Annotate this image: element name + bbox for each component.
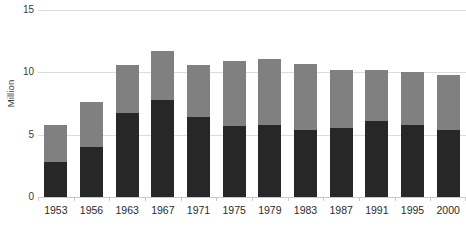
bar-1995[interactable] — [401, 10, 424, 197]
bar-segment-upper-1953 — [44, 125, 67, 162]
bar-1963[interactable] — [116, 10, 139, 197]
bar-segment-lower-1971 — [187, 117, 210, 197]
x-axis-label-1995: 1995 — [395, 204, 431, 217]
x-axis-label-1983: 1983 — [288, 204, 324, 217]
x-tick-1953 — [38, 197, 39, 201]
x-tick-1987 — [323, 197, 324, 201]
x-axis-label-1971: 1971 — [181, 204, 217, 217]
bar-segment-upper-1967 — [151, 51, 174, 100]
x-tick-1967 — [145, 197, 146, 201]
x-axis-label-1975: 1975 — [216, 204, 252, 217]
bar-1975[interactable] — [223, 10, 246, 197]
y-tick-label-5: 5 — [4, 130, 34, 140]
bar-1987[interactable] — [330, 10, 353, 197]
y-tick-label-10: 10 — [4, 67, 34, 77]
bar-segment-lower-1995 — [401, 125, 424, 197]
bar-segment-lower-1975 — [223, 126, 246, 197]
x-tick-1963 — [109, 197, 110, 201]
bar-2000[interactable] — [437, 10, 460, 197]
x-tick-1991 — [359, 197, 360, 201]
plot-area — [38, 10, 466, 197]
x-tick-1983 — [288, 197, 289, 201]
bar-segment-lower-1953 — [44, 162, 67, 197]
bar-segment-lower-1987 — [330, 128, 353, 197]
bar-1983[interactable] — [294, 10, 317, 197]
y-axis-tick-labels: 15 10 5 0 — [0, 10, 34, 197]
x-axis-label-1987: 1987 — [323, 204, 359, 217]
x-axis-label-1953: 1953 — [38, 204, 74, 217]
x-tick-1995 — [395, 197, 396, 201]
bar-segment-lower-1963 — [116, 113, 139, 197]
bar-segment-upper-1971 — [187, 65, 210, 117]
bar-segment-upper-2000 — [437, 75, 460, 130]
x-tick-1975 — [216, 197, 217, 201]
bar-segment-lower-1991 — [365, 121, 388, 197]
x-axis-label-1956: 1956 — [74, 204, 110, 217]
bar-1956[interactable] — [80, 10, 103, 197]
bar-segment-lower-2000 — [437, 130, 460, 197]
x-tick-1956 — [74, 197, 75, 201]
bar-1971[interactable] — [187, 10, 210, 197]
bar-segment-lower-1956 — [80, 147, 103, 197]
bar-segment-upper-1995 — [401, 72, 424, 124]
bar-segment-upper-1991 — [365, 70, 388, 121]
x-axis-label-1979: 1979 — [252, 204, 288, 217]
bar-segment-upper-1975 — [223, 61, 246, 126]
bar-segment-upper-1983 — [294, 64, 317, 130]
stacked-bar-chart: Million 15 10 5 0 1953195619631967197119… — [0, 0, 466, 227]
x-axis-label-2000: 2000 — [430, 204, 466, 217]
x-axis-label-1963: 1963 — [109, 204, 145, 217]
bar-segment-lower-1983 — [294, 130, 317, 197]
bar-segment-upper-1987 — [330, 70, 353, 129]
x-tick-2000 — [430, 197, 431, 201]
bar-segment-lower-1979 — [258, 125, 281, 197]
bar-segment-upper-1956 — [80, 102, 103, 147]
bar-1953[interactable] — [44, 10, 67, 197]
bar-1991[interactable] — [365, 10, 388, 197]
bar-segment-upper-1979 — [258, 59, 281, 125]
x-tick-1979 — [252, 197, 253, 201]
y-tick-label-0: 0 — [4, 192, 34, 202]
x-tick-1971 — [181, 197, 182, 201]
bar-1979[interactable] — [258, 10, 281, 197]
bar-segment-upper-1963 — [116, 65, 139, 114]
x-axis-label-1967: 1967 — [145, 204, 181, 217]
bar-1967[interactable] — [151, 10, 174, 197]
bar-segment-lower-1967 — [151, 100, 174, 197]
x-axis-label-1991: 1991 — [359, 204, 395, 217]
y-tick-label-15: 15 — [4, 5, 34, 15]
